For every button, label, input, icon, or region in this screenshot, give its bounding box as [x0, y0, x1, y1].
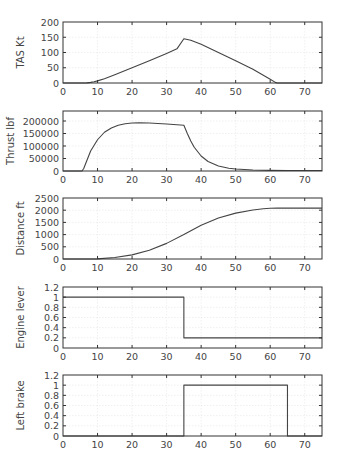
y-tick-label: 0.2	[44, 420, 59, 431]
y-tick-label: 150	[41, 32, 59, 43]
x-tick-label: 50	[230, 174, 242, 185]
y-tick-label: 50000	[29, 153, 59, 164]
y-tick-label: 0.4	[44, 322, 59, 333]
y-tick-label: 1	[53, 380, 59, 391]
subplot-thrust: 010203040506070050000100000150000200000T…	[5, 111, 322, 185]
y-tick-label: 0.2	[44, 332, 59, 343]
x-tick-label: 40	[195, 262, 207, 273]
x-tick-label: 10	[91, 86, 103, 97]
y-tick-label: 100	[41, 47, 59, 58]
y-tick-label: 0.8	[44, 390, 59, 401]
subplot-engine-lever: 01020304050607000.20.40.60.811.2Engine l…	[15, 282, 322, 363]
y-tick-label: 2500	[35, 193, 59, 204]
y-tick-label: 1.2	[44, 370, 59, 381]
x-tick-label: 30	[161, 262, 173, 273]
y-axis-label: TAS Kt	[15, 36, 26, 69]
x-tick-label: 70	[299, 439, 311, 450]
y-tick-label: 50	[47, 62, 59, 73]
y-tick-label: 0	[53, 78, 59, 89]
x-tick-label: 70	[299, 174, 311, 185]
y-axis-label: Thrust lbf	[5, 117, 16, 166]
subplot-distance: 01020304050607005001000150020002500Dista…	[15, 193, 322, 274]
y-tick-label: 0.6	[44, 312, 59, 323]
y-tick-label: 0	[53, 166, 59, 177]
y-tick-label: 500	[41, 241, 59, 252]
x-tick-label: 0	[60, 262, 66, 273]
x-tick-label: 0	[60, 86, 66, 97]
y-tick-label: 150000	[23, 128, 59, 139]
y-tick-label: 0.6	[44, 400, 59, 411]
figure: 010203040506070050100150200TAS Kt 010203…	[0, 0, 340, 471]
x-tick-label: 10	[91, 174, 103, 185]
x-tick-label: 40	[195, 174, 207, 185]
y-tick-label: 1.2	[44, 282, 59, 293]
series-line	[63, 123, 322, 171]
x-tick-label: 40	[195, 351, 207, 362]
x-tick-label: 40	[195, 86, 207, 97]
x-tick-label: 0	[60, 351, 66, 362]
y-tick-label: 0	[53, 254, 59, 265]
x-tick-label: 30	[161, 86, 173, 97]
x-tick-label: 60	[264, 86, 276, 97]
x-tick-label: 50	[230, 439, 242, 450]
subplot-left-brake: 01020304050607000.20.40.60.811.2Left bra…	[15, 370, 322, 451]
x-tick-label: 20	[126, 439, 138, 450]
x-tick-label: 10	[91, 439, 103, 450]
subplot-tas: 010203040506070050100150200TAS Kt	[15, 17, 322, 98]
y-tick-label: 200000	[23, 116, 59, 127]
x-tick-label: 70	[299, 262, 311, 273]
y-tick-label: 0.8	[44, 302, 59, 313]
y-tick-label: 0	[53, 343, 59, 354]
y-tick-label: 200	[41, 17, 59, 28]
x-tick-label: 20	[126, 351, 138, 362]
x-tick-label: 30	[161, 174, 173, 185]
x-tick-label: 10	[91, 262, 103, 273]
x-tick-label: 50	[230, 86, 242, 97]
axes-frame	[63, 111, 322, 171]
y-tick-label: 2000	[35, 205, 59, 216]
x-tick-label: 20	[126, 86, 138, 97]
x-tick-label: 20	[126, 262, 138, 273]
series-line	[63, 385, 322, 436]
x-tick-label: 60	[264, 262, 276, 273]
x-tick-label: 10	[91, 351, 103, 362]
x-tick-label: 40	[195, 439, 207, 450]
x-tick-label: 60	[264, 174, 276, 185]
y-tick-label: 100000	[23, 141, 59, 152]
y-tick-label: 1000	[35, 229, 59, 240]
x-tick-label: 0	[60, 174, 66, 185]
y-tick-label: 1	[53, 292, 59, 303]
y-axis-label: Distance ft	[15, 201, 26, 255]
x-tick-label: 60	[264, 351, 276, 362]
y-tick-label: 0.4	[44, 410, 59, 421]
x-tick-label: 30	[161, 351, 173, 362]
series-line	[63, 39, 322, 83]
x-tick-label: 70	[299, 86, 311, 97]
y-tick-label: 0	[53, 431, 59, 442]
y-tick-label: 1500	[35, 217, 59, 228]
y-axis-label: Left brake	[15, 380, 26, 430]
y-axis-label: Engine lever	[15, 285, 26, 348]
x-tick-label: 50	[230, 351, 242, 362]
axes-frame	[63, 198, 322, 259]
x-tick-label: 20	[126, 174, 138, 185]
x-tick-label: 0	[60, 439, 66, 450]
series-line	[63, 208, 322, 259]
x-tick-label: 70	[299, 351, 311, 362]
x-tick-label: 50	[230, 262, 242, 273]
x-tick-label: 60	[264, 439, 276, 450]
x-tick-label: 30	[161, 439, 173, 450]
